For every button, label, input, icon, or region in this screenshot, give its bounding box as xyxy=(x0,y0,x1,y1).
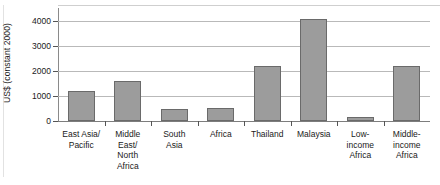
x-axis-label-line: Pacific xyxy=(58,140,105,151)
x-axis-tick xyxy=(244,121,245,126)
x-axis-label-line: South xyxy=(151,129,198,140)
x-axis-label-line: Middle xyxy=(105,129,152,140)
x-axis-label-line: East Asia/ xyxy=(58,129,105,140)
x-axis-label-line: Middle- xyxy=(384,129,431,140)
x-axis: East Asia/PacificMiddleEast/NorthAfricaS… xyxy=(58,121,430,185)
bar xyxy=(68,91,95,121)
x-axis-label-line: Africa xyxy=(384,150,431,161)
x-axis-category-label: Low-incomeAfrica xyxy=(337,129,384,161)
x-axis-category-label: Malaysia xyxy=(291,129,338,140)
y-axis-title-label: US$ (constant 2000) xyxy=(2,23,12,103)
bar-chart: US$ (constant 2000) 01000200030004000 Ea… xyxy=(0,0,440,185)
x-axis-tick xyxy=(105,121,106,126)
x-axis-label-line: Africa xyxy=(198,129,245,140)
x-axis-label-line: Thailand xyxy=(244,129,291,140)
x-axis-category-label: MiddleEast/NorthAfrica xyxy=(105,129,152,171)
x-axis-tick xyxy=(337,121,338,126)
x-axis-label-line: Africa xyxy=(105,161,152,172)
plot-area: 01000200030004000 xyxy=(58,16,430,121)
x-axis-label-line: North xyxy=(105,150,152,161)
x-axis-label-line: income xyxy=(384,140,431,151)
x-axis-tick xyxy=(151,121,152,126)
x-axis-category-label: SouthAsia xyxy=(151,129,198,150)
x-axis-category-label: Thailand xyxy=(244,129,291,140)
bar xyxy=(114,81,141,122)
x-axis-label-line: Low- xyxy=(337,129,384,140)
y-axis-tick-label: 3000 xyxy=(32,41,51,51)
y-axis-tick-label: 2000 xyxy=(32,66,51,76)
chart-top-rule xyxy=(58,5,440,6)
bar xyxy=(300,19,327,121)
bar xyxy=(393,66,420,121)
x-axis-label-line: East/ xyxy=(105,140,152,151)
y-axis-tick-label: 4000 xyxy=(32,16,51,26)
x-axis-label-line: Malaysia xyxy=(291,129,338,140)
x-axis-label-line: Africa xyxy=(337,150,384,161)
bar xyxy=(254,66,281,121)
x-axis-label-line: income xyxy=(337,140,384,151)
x-axis-category-label: Africa xyxy=(198,129,245,140)
y-axis-tick-label: 0 xyxy=(46,116,51,126)
bar-series xyxy=(58,16,430,121)
bar xyxy=(207,108,234,121)
bar xyxy=(161,109,188,122)
x-axis-category-label: Middle-incomeAfrica xyxy=(384,129,431,161)
y-axis-tick-label: 1000 xyxy=(32,91,51,101)
x-axis-tick xyxy=(384,121,385,126)
x-axis-label-line: Asia xyxy=(151,140,198,151)
x-axis-category-label: East Asia/Pacific xyxy=(58,129,105,150)
y-axis-title: US$ (constant 2000) xyxy=(0,0,14,125)
x-axis-tick xyxy=(198,121,199,126)
x-axis-tick xyxy=(291,121,292,126)
